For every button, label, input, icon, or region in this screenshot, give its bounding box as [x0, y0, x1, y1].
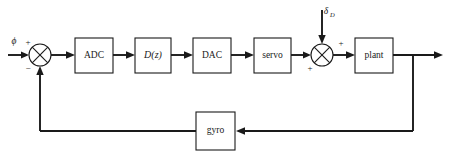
block-dac[interactable]: DAC: [193, 38, 231, 73]
sign-plus-error-junction: +: [25, 37, 30, 47]
block-dz[interactable]: D(z): [135, 38, 171, 73]
block-gyro-label: gyro: [207, 125, 225, 135]
signal-disturbance-input-label: δ: [324, 6, 329, 16]
summing-junction-error: [29, 44, 51, 66]
signal-disturbance-input-subscript: D: [329, 11, 335, 18]
block-dz-label: D(z): [143, 49, 162, 61]
wire-dac-to-servo: [231, 51, 254, 59]
block-adc[interactable]: ADC: [75, 38, 113, 73]
wire-dz-to-dac: [171, 51, 193, 59]
sign-plus-disturbance-junction-input: +: [307, 63, 312, 73]
block-diagram-canvas: ADC D(z) DAC servo plant gyro + − + + ϕ: [0, 0, 449, 154]
wire-servo-to-sum: [291, 51, 311, 58]
summing-junction-disturbance: [311, 44, 333, 66]
wire-feedback-to-gyro: [236, 127, 413, 135]
block-servo[interactable]: servo: [254, 38, 291, 73]
block-adc-label: ADC: [84, 50, 104, 60]
block-servo-label: servo: [262, 50, 283, 60]
wire-gyro-to-junction: [36, 66, 196, 131]
sign-plus-disturbance-junction-output: +: [338, 38, 343, 48]
wire-adc-to-dz: [113, 51, 135, 59]
block-diagram-svg: ADC D(z) DAC servo plant gyro + − + + ϕ: [0, 0, 449, 154]
wire-plant-to-output: [393, 51, 443, 59]
sign-minus-error-junction: −: [25, 63, 30, 73]
signal-reference-input-label: ϕ: [12, 36, 17, 46]
wire-sum-to-plant: [333, 51, 355, 59]
wire-junction-to-adc: [51, 51, 75, 59]
block-gyro[interactable]: gyro: [196, 112, 235, 150]
wire-reference-to-junction: [8, 52, 29, 59]
block-plant[interactable]: plant: [355, 38, 393, 73]
block-plant-label: plant: [365, 50, 384, 60]
block-dac-label: DAC: [202, 50, 222, 60]
